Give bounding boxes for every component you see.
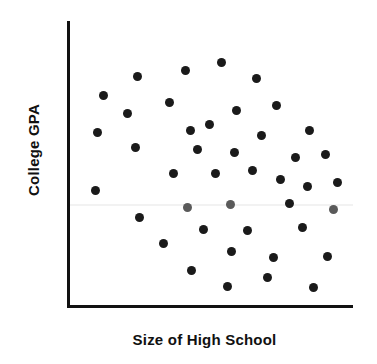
data-point [248,166,257,175]
data-point [99,91,108,100]
data-point [123,109,132,118]
data-point [165,98,174,107]
data-point [309,283,318,292]
data-point [135,213,144,222]
data-point [243,226,252,235]
plot-area [0,0,377,364]
data-point [303,182,312,191]
scatter-plot-figure: College GPA Size of High School [0,0,377,364]
data-point [199,225,208,234]
data-point [323,252,332,261]
data-point [291,153,300,162]
data-point [232,106,241,115]
data-point [186,126,195,135]
data-point [133,72,142,81]
data-point [223,282,232,291]
x-axis-line [67,305,353,308]
data-point [211,169,220,178]
data-point [193,145,202,154]
data-point [181,66,190,75]
data-point [298,223,307,232]
data-point [217,58,226,67]
data-point [230,148,239,157]
data-point [205,120,214,129]
data-point [333,178,342,187]
x-axis-label: Size of High School [0,331,377,348]
data-point [263,273,272,282]
data-point [257,131,266,140]
data-point [305,126,314,135]
data-point [93,128,102,137]
scan-line-artifact [68,204,353,206]
data-point [187,266,196,275]
data-point [321,150,330,159]
data-point [269,253,278,262]
data-point [169,169,178,178]
data-point [91,186,100,195]
data-point [131,143,140,152]
data-point [252,74,261,83]
data-point [276,175,285,184]
y-axis-line [67,21,70,308]
data-point [159,239,168,248]
y-axis-label: College GPA [25,104,42,196]
data-point [227,247,236,256]
data-point [272,101,281,110]
